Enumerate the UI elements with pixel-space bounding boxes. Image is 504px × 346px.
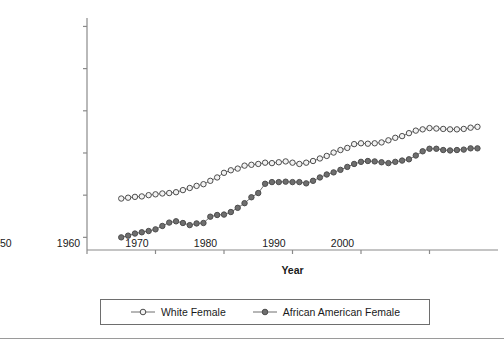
- data-point: [427, 146, 432, 151]
- data-point: [256, 190, 261, 195]
- data-point: [365, 141, 370, 146]
- data-point: [256, 161, 261, 166]
- data-point: [420, 149, 425, 154]
- x-axis-tick-labels: 195019601970198019902000: [0, 237, 411, 253]
- legend-marker: [262, 309, 268, 315]
- data-point: [228, 168, 233, 173]
- data-point: [173, 190, 178, 195]
- legend-entry: African American Female: [252, 306, 400, 318]
- data-point: [331, 170, 336, 175]
- data-point: [413, 128, 418, 133]
- data-point: [475, 146, 480, 151]
- data-point: [454, 127, 459, 132]
- x-axis-tick-label: 1950: [0, 237, 23, 249]
- data-point: [276, 179, 281, 184]
- data-point: [208, 178, 213, 183]
- data-point: [317, 156, 322, 161]
- filled-circle-marker-icon: [252, 307, 278, 317]
- data-point: [283, 179, 288, 184]
- data-point: [304, 160, 309, 165]
- legend-marker: [140, 309, 146, 315]
- data-point: [194, 183, 199, 188]
- data-point: [214, 175, 219, 180]
- data-point: [160, 191, 165, 196]
- data-point: [153, 227, 158, 232]
- data-point: [324, 172, 329, 177]
- data-point: [475, 124, 480, 129]
- data-point: [310, 158, 315, 163]
- y-axis-label: Median Income (2007 Dollars): [0, 0, 9, 4]
- data-point: [379, 140, 384, 145]
- data-point: [413, 153, 418, 158]
- data-point: [358, 159, 363, 164]
- data-point: [139, 230, 144, 235]
- data-point: [434, 126, 439, 131]
- data-point: [468, 146, 473, 151]
- data-point: [345, 164, 350, 169]
- data-point: [372, 159, 377, 164]
- data-point: [153, 192, 158, 197]
- data-point: [399, 158, 404, 163]
- data-point: [180, 220, 185, 225]
- data-point: [146, 228, 151, 233]
- data-point: [345, 145, 350, 150]
- data-point: [317, 175, 322, 180]
- data-point: [379, 160, 384, 165]
- data-point: [146, 192, 151, 197]
- data-point: [132, 194, 137, 199]
- data-point: [297, 179, 302, 184]
- legend-entry: White Female: [130, 306, 226, 318]
- chart-figure: Median Income (2007 Dollars) 10,00020,00…: [0, 0, 504, 346]
- data-point: [310, 178, 315, 183]
- data-point: [283, 159, 288, 164]
- chart-legend: White FemaleAfrican American Female: [100, 299, 430, 325]
- data-point: [276, 160, 281, 165]
- x-axis-tick-label: 1970: [114, 237, 160, 249]
- data-point: [393, 135, 398, 140]
- data-point: [290, 179, 295, 184]
- data-point: [351, 161, 356, 166]
- data-point: [180, 187, 185, 192]
- data-point: [447, 127, 452, 132]
- data-point: [461, 147, 466, 152]
- data-point: [262, 160, 267, 165]
- x-axis-tick-label: 1980: [183, 237, 229, 249]
- data-point: [187, 222, 192, 227]
- data-point: [249, 195, 254, 200]
- x-axis-tick-label: 2000: [320, 237, 366, 249]
- data-point: [399, 133, 404, 138]
- data-point: [290, 160, 295, 165]
- data-point: [427, 125, 432, 130]
- data-point: [119, 196, 124, 201]
- data-point: [201, 182, 206, 187]
- data-point: [461, 126, 466, 131]
- plot-area: [87, 18, 498, 250]
- data-point: [393, 159, 398, 164]
- data-point: [386, 138, 391, 143]
- data-point: [221, 170, 226, 175]
- data-point: [338, 147, 343, 152]
- data-point: [173, 219, 178, 224]
- data-point: [386, 160, 391, 165]
- data-point: [304, 181, 309, 186]
- data-point: [167, 220, 172, 225]
- data-point: [324, 153, 329, 158]
- data-point: [214, 212, 219, 217]
- data-point: [187, 185, 192, 190]
- data-point: [167, 190, 172, 195]
- data-point: [242, 163, 247, 168]
- data-point: [235, 205, 240, 210]
- open-circle-marker-icon: [130, 307, 156, 317]
- data-point: [132, 231, 137, 236]
- data-point: [269, 160, 274, 165]
- series-1: [119, 124, 481, 201]
- data-point: [372, 141, 377, 146]
- data-point: [228, 209, 233, 214]
- data-point: [365, 158, 370, 163]
- data-point: [454, 147, 459, 152]
- data-point: [406, 157, 411, 162]
- data-point: [208, 214, 213, 219]
- data-point: [242, 200, 247, 205]
- data-point: [297, 161, 302, 166]
- data-point: [447, 148, 452, 153]
